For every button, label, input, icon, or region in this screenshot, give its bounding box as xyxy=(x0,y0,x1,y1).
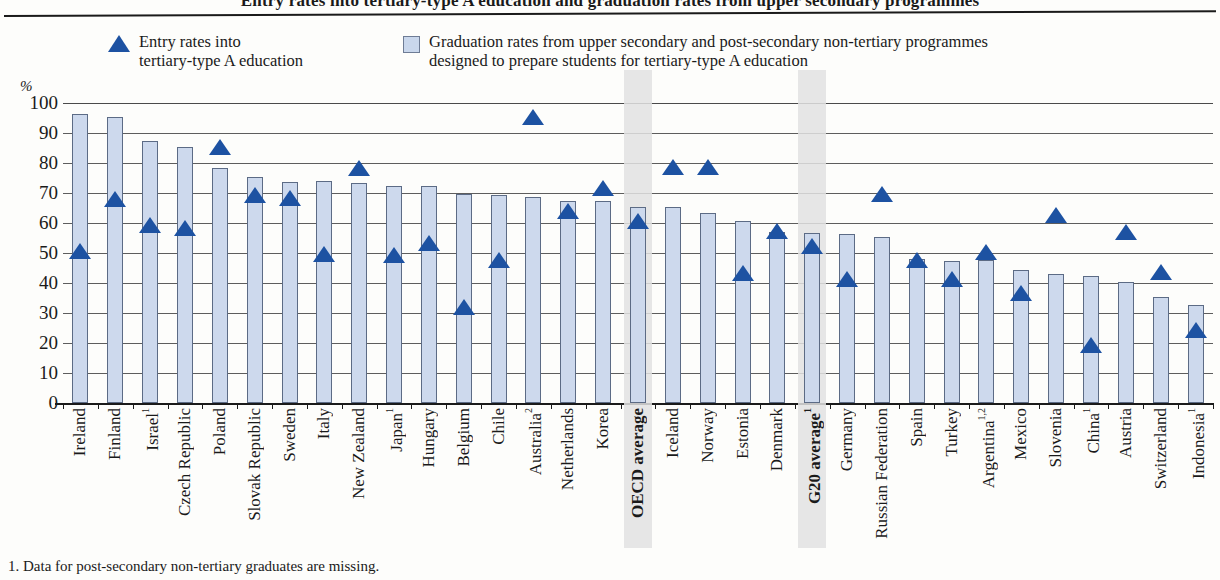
footnote-marker: 2 xyxy=(523,408,534,413)
footnote-marker: 1,2 xyxy=(976,408,987,421)
bar-denmark[interactable] xyxy=(769,232,785,403)
entry-rate-marker-estonia[interactable] xyxy=(732,265,754,281)
entry-rate-marker-norway[interactable] xyxy=(697,159,719,175)
entry-rate-marker-iceland[interactable] xyxy=(662,159,684,175)
bar-japan[interactable] xyxy=(386,186,402,403)
bar-korea[interactable] xyxy=(595,201,611,403)
entry-rate-marker-russian-federation[interactable] xyxy=(871,186,893,202)
bar-iceland[interactable] xyxy=(665,207,681,404)
entry-rate-marker-china[interactable] xyxy=(1080,337,1102,353)
entry-rate-marker-switzerland[interactable] xyxy=(1150,264,1172,280)
bar-norway[interactable] xyxy=(700,213,716,403)
y-tick-label-80: 80 xyxy=(12,153,58,172)
entry-rate-marker-mexico[interactable] xyxy=(1010,285,1032,301)
category-label-oecd-average: OECD average xyxy=(629,408,646,518)
category-label-estonia: Estonia xyxy=(734,408,751,459)
category-label-japan: Japan1 xyxy=(385,408,405,452)
bar-israel[interactable] xyxy=(142,141,158,403)
category-label-germany: Germany xyxy=(838,408,855,471)
entry-rate-marker-indonesia[interactable] xyxy=(1185,322,1207,338)
bar-austria[interactable] xyxy=(1118,282,1134,404)
bar-finland[interactable] xyxy=(107,117,123,404)
entry-rate-marker-g20-average[interactable] xyxy=(801,238,823,254)
category-label-sweden: Sweden xyxy=(281,408,298,462)
bar-estonia[interactable] xyxy=(735,221,751,403)
y-tick-label-30: 30 xyxy=(12,303,58,322)
legend-graduation-text: Graduation rates from upper secondary an… xyxy=(429,32,988,70)
category-label-norway: Norway xyxy=(699,408,716,463)
bar-slovenia[interactable] xyxy=(1048,274,1064,403)
entry-rate-marker-finland[interactable] xyxy=(104,191,126,207)
entry-rate-marker-korea[interactable] xyxy=(592,180,614,196)
y-axis-tick-labels: 1009080706050403020100 xyxy=(0,103,58,413)
entry-rate-marker-argentina[interactable] xyxy=(975,244,997,260)
entry-rate-marker-new-zealand[interactable] xyxy=(348,160,370,176)
bar-switzerland[interactable] xyxy=(1153,297,1169,403)
entry-rate-marker-oecd-average[interactable] xyxy=(627,213,649,229)
legend-entry-text: Entry rates into tertiary-type A educati… xyxy=(139,32,303,70)
y-tick-label-0: 0 xyxy=(12,393,58,412)
category-label-indonesia: Indonesia1 xyxy=(1187,408,1207,479)
bar-chile[interactable] xyxy=(491,195,507,403)
bar-sweden[interactable] xyxy=(282,182,298,403)
category-label-netherlands: Netherlands xyxy=(559,408,576,490)
bar-russian-federation[interactable] xyxy=(874,237,890,403)
entry-rate-marker-sweden[interactable] xyxy=(279,190,301,206)
bar-poland[interactable] xyxy=(212,168,228,403)
entry-rate-marker-netherlands[interactable] xyxy=(557,203,579,219)
entry-rate-marker-australia[interactable] xyxy=(522,109,544,125)
category-label-czech-republic: Czech Republic xyxy=(176,408,193,516)
entry-rate-marker-slovenia[interactable] xyxy=(1045,207,1067,223)
entry-rate-marker-israel[interactable] xyxy=(139,217,161,233)
bar-spain[interactable] xyxy=(909,259,925,403)
entry-rate-marker-ireland[interactable] xyxy=(69,243,91,259)
footnote-marker: 1 xyxy=(1081,408,1092,413)
entry-rate-marker-japan[interactable] xyxy=(383,247,405,263)
entry-rate-marker-poland[interactable] xyxy=(209,139,231,155)
entry-rate-marker-czech-republic[interactable] xyxy=(174,220,196,236)
y-tick-label-20: 20 xyxy=(12,333,58,352)
entry-rate-marker-slovak-republic[interactable] xyxy=(244,187,266,203)
bar-netherlands[interactable] xyxy=(560,201,576,404)
bar-czech-republic[interactable] xyxy=(177,147,193,404)
bar-oecd-average[interactable] xyxy=(630,207,646,404)
bar-slovak-republic[interactable] xyxy=(247,177,263,404)
entry-rate-marker-denmark[interactable] xyxy=(766,223,788,239)
page-title: Entry rates into tertiary-type A educati… xyxy=(0,0,1220,11)
category-label-russian-federation: Russian Federation xyxy=(873,408,890,539)
legend-item-graduation-rates: Graduation rates from upper secondary an… xyxy=(403,32,988,70)
category-label-israel: Israel1 xyxy=(141,408,161,451)
bar-g20-average[interactable] xyxy=(804,233,820,403)
bar-new-zealand[interactable] xyxy=(351,183,367,403)
y-tick-label-60: 60 xyxy=(12,213,58,232)
y-tick-label-40: 40 xyxy=(12,273,58,292)
entry-rate-marker-hungary[interactable] xyxy=(418,235,440,251)
entry-rate-marker-chile[interactable] xyxy=(488,252,510,268)
category-label-argentina: Argentina1,2 xyxy=(977,408,997,488)
category-label-spain: Spain xyxy=(908,408,925,447)
bar-hungary[interactable] xyxy=(421,186,437,403)
category-label-ireland: Ireland xyxy=(71,408,88,456)
legend-entry-line2: tertiary-type A education xyxy=(139,51,303,70)
category-label-denmark: Denmark xyxy=(768,408,785,471)
category-axis-labels: IrelandFinlandIsrael1Czech RepublicPolan… xyxy=(63,408,1213,550)
entry-rate-marker-belgium[interactable] xyxy=(453,299,475,315)
legend-item-entry-rates: Entry rates into tertiary-type A educati… xyxy=(108,32,303,70)
bar-germany[interactable] xyxy=(839,234,855,403)
bar-australia[interactable] xyxy=(525,197,541,403)
footnote-marker: 1 xyxy=(384,408,395,413)
bar-argentina[interactable] xyxy=(978,260,994,403)
bar-indonesia[interactable] xyxy=(1188,305,1204,403)
entry-rate-marker-spain[interactable] xyxy=(906,252,928,268)
y-tick-label-90: 90 xyxy=(12,123,58,142)
category-label-korea: Korea xyxy=(594,408,611,450)
entry-rate-marker-austria[interactable] xyxy=(1115,224,1137,240)
entry-rate-marker-turkey[interactable] xyxy=(941,271,963,287)
bar-italy[interactable] xyxy=(316,181,332,403)
category-label-hungary: Hungary xyxy=(420,408,437,467)
category-label-italy: Italy xyxy=(315,408,332,439)
entry-rate-marker-italy[interactable] xyxy=(313,246,335,262)
footnote-marker: 1 xyxy=(1186,408,1197,413)
entry-rate-marker-germany[interactable] xyxy=(836,271,858,287)
footnote-marker: 1 xyxy=(140,408,151,413)
